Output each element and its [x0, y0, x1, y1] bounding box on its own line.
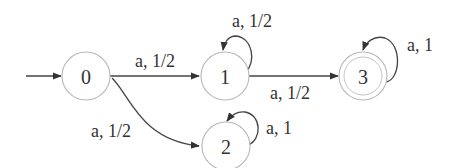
state-0: 0: [62, 52, 110, 100]
edge-label-0-to-2: a, 1/2: [91, 121, 131, 141]
state-1: 1: [201, 52, 249, 100]
edge-label-0-to-1: a, 1/2: [135, 51, 175, 71]
edge-label-3-self-loop: a, 1: [407, 35, 433, 55]
state-label-3: 3: [358, 66, 368, 88]
edge-label-1-self-loop: a, 1/2: [232, 11, 272, 31]
edge-label-2-self-loop: a, 1: [266, 118, 292, 138]
edge-label-1-to-3: a, 1/2: [270, 83, 310, 103]
state-label-2: 2: [221, 136, 231, 158]
state-label-0: 0: [81, 66, 91, 88]
state-3-accepting: 3: [339, 52, 387, 100]
state-2: 2: [202, 122, 250, 168]
state-label-1: 1: [220, 66, 230, 88]
automaton-diagram: a, 1/2 a, 1/2 a, 1/2 a, 1/2 a, 1 a, 1 0 …: [0, 0, 463, 168]
